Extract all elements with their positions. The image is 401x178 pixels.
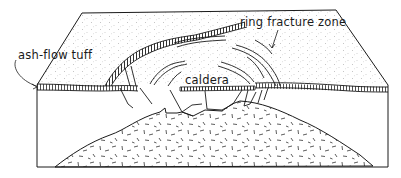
label-ring-fracture-zone: ring fracture zone (240, 15, 346, 29)
arrow-icon (32, 84, 37, 89)
label-ash-flow-tuff: ash-flow tuff (18, 48, 92, 62)
intrusive-dome (55, 101, 373, 167)
label-caldera: caldera (185, 73, 229, 87)
ash-flow-tuff-leader (15, 60, 36, 86)
